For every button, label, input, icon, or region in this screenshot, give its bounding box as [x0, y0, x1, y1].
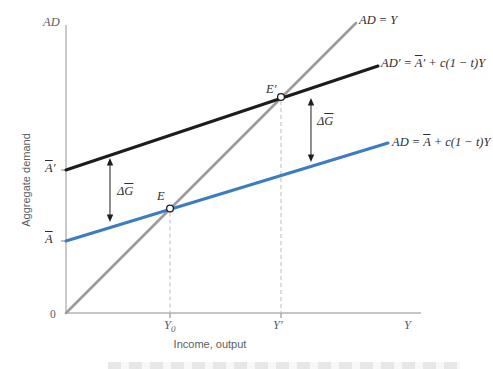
keynesian-cross-figure: AD Aggregate demand Income, output 0 Y0 … — [0, 0, 493, 369]
arrow-head-down-delta-G-right — [308, 155, 314, 163]
label-overbar: A — [415, 56, 423, 70]
label-part: + c(1 − t)Y — [431, 135, 491, 149]
label-part: AD′ = — [381, 56, 415, 70]
label-part: ′ — [53, 161, 56, 175]
y-axis-symbol: AD — [43, 16, 60, 30]
arrow-head-down-delta-G-left — [107, 214, 113, 222]
line-label-45deg: AD = Y — [359, 14, 397, 28]
label-overbar: A — [45, 161, 53, 175]
arrow-head-up-delta-G-left — [107, 158, 113, 166]
label-subscript: 0 — [171, 324, 176, 334]
line-ad-initial — [66, 143, 388, 241]
delta-g-label-left: ΔG — [117, 185, 133, 199]
x-tick-label-yprime: Y′ — [273, 319, 283, 333]
label-overbar: G — [124, 184, 133, 198]
point-E — [167, 205, 174, 212]
cutoff-caption-strip — [108, 362, 460, 369]
y-axis-title: Aggregate demand — [20, 110, 32, 250]
label-overbar: A — [45, 232, 53, 246]
x-axis-title: Income, output — [145, 338, 275, 350]
point-E-prime — [278, 94, 285, 101]
y-tick-label-abar-prime: A′ — [45, 162, 55, 176]
point-label-e: E — [157, 190, 165, 204]
label-part: Y — [164, 318, 171, 332]
line-label-ad-new: AD′ = A′ + c(1 − t)Y — [381, 57, 485, 71]
y-tick-label-abar: A — [45, 233, 53, 247]
arrow-head-up-delta-G-right — [308, 98, 314, 106]
delta-g-label-right: ΔG — [317, 115, 333, 129]
origin-label: 0 — [50, 308, 56, 321]
label-part: ′ + c(1 − t)Y — [423, 56, 486, 70]
chart-layers — [61, 23, 388, 318]
label-overbar: A — [423, 135, 430, 149]
point-label-e-prime: E′ — [266, 83, 276, 97]
label-part: AD = — [392, 135, 423, 149]
x-end-label: Y — [404, 319, 411, 333]
x-tick-label-y0: Y0 — [164, 319, 175, 334]
line-label-ad-initial: AD = A + c(1 − t)Y — [392, 136, 490, 150]
label-overbar: G — [324, 114, 333, 128]
